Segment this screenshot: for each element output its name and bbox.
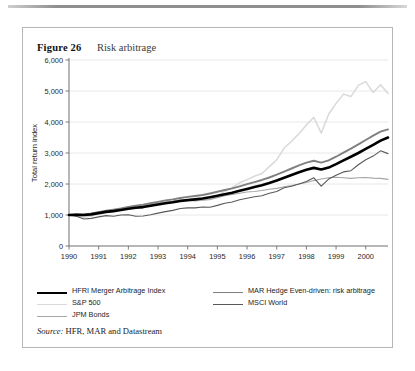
- page-top-rule: [8, 5, 407, 8]
- x-tick-label: 1996: [239, 252, 255, 261]
- x-tick-label: 1990: [61, 252, 77, 261]
- legend-label-hfri: HFRI Merger Arbitrage Index: [72, 286, 165, 296]
- legend-item-sp500: S&P 500: [37, 298, 213, 308]
- y-tick-label: 2,000: [45, 180, 64, 189]
- y-axis-title: Total return index: [30, 124, 39, 182]
- legend-item-mar: MAR Hedge Even-driven: risk arbitrage: [213, 286, 385, 296]
- x-tick-label: 1992: [120, 252, 136, 261]
- x-tick-label: 1994: [179, 252, 195, 261]
- y-tick-label: 0: [59, 242, 63, 251]
- x-tick-label: 1991: [90, 252, 106, 261]
- figure-container: Figure 26 Risk arbitrage 01,0002,0003,00…: [22, 27, 393, 348]
- legend-label-msci: MSCI World: [248, 298, 287, 308]
- chart-plot-area: 01,0002,0003,0004,0005,0006,000199019911…: [23, 52, 394, 284]
- x-tick-label: 1995: [209, 252, 225, 261]
- x-tick-label: 1993: [150, 252, 166, 261]
- figure-page: Figure 26 Risk arbitrage 01,0002,0003,00…: [0, 0, 415, 371]
- legend-row: JPM Bonds: [37, 310, 385, 320]
- legend-item-msci: MSCI World: [213, 298, 385, 308]
- legend-label-mar: MAR Hedge Even-driven: risk arbitrage: [248, 286, 375, 296]
- y-tick-label: 5,000: [45, 87, 64, 96]
- legend-label-sp500: S&P 500: [72, 298, 101, 308]
- series-line: [69, 82, 388, 217]
- legend-item-jpm: JPM Bonds: [37, 310, 213, 320]
- legend-label-jpm: JPM Bonds: [72, 310, 109, 320]
- x-tick-label: 1997: [268, 252, 284, 261]
- x-tick-label: 2000: [358, 252, 374, 261]
- legend-row: S&P 500 MSCI World: [37, 298, 385, 308]
- y-tick-label: 1,000: [45, 211, 64, 220]
- source-text: HFR, MAR and Datastream: [66, 326, 162, 336]
- legend-item-hfri: HFRI Merger Arbitrage Index: [37, 286, 213, 296]
- source-label: Source:: [37, 326, 63, 336]
- figure-source: Source: HFR, MAR and Datastream: [37, 326, 162, 336]
- legend-row: HFRI Merger Arbitrage Index MAR Hedge Ev…: [37, 286, 385, 296]
- y-tick-label: 3,000: [45, 149, 64, 158]
- x-tick-label: 1998: [298, 252, 314, 261]
- chart-legend: HFRI Merger Arbitrage Index MAR Hedge Ev…: [37, 286, 385, 322]
- y-tick-label: 6,000: [45, 56, 64, 65]
- y-tick-label: 4,000: [45, 118, 64, 127]
- x-tick-label: 1999: [328, 252, 344, 261]
- line-chart: 01,0002,0003,0004,0005,0006,000199019911…: [23, 52, 394, 284]
- series-line: [69, 138, 388, 216]
